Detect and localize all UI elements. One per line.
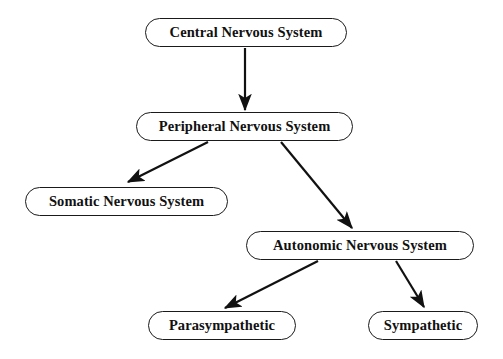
node-label-parasympathetic: Parasympathetic bbox=[169, 318, 275, 333]
node-autonomic-nervous-system[interactable]: Autonomic Nervous System bbox=[246, 231, 474, 260]
node-somatic-nervous-system[interactable]: Somatic Nervous System bbox=[25, 187, 228, 216]
edge-peripheral-to-somatic bbox=[128, 142, 208, 182]
node-label-peripheral: Peripheral Nervous System bbox=[159, 119, 331, 134]
node-sympathetic[interactable]: Sympathetic bbox=[368, 311, 478, 340]
node-peripheral-nervous-system[interactable]: Peripheral Nervous System bbox=[136, 112, 353, 141]
node-label-central: Central Nervous System bbox=[170, 25, 323, 40]
node-label-autonomic: Autonomic Nervous System bbox=[273, 238, 447, 253]
node-central-nervous-system[interactable]: Central Nervous System bbox=[145, 18, 347, 47]
edge-peripheral-to-autonomic bbox=[281, 142, 352, 228]
node-label-sympathetic: Sympathetic bbox=[384, 318, 462, 333]
nervous-system-diagram: Central Nervous System Peripheral Nervou… bbox=[0, 0, 503, 359]
node-parasympathetic[interactable]: Parasympathetic bbox=[148, 311, 296, 340]
edge-autonomic-to-sympathetic bbox=[396, 261, 424, 307]
node-label-somatic: Somatic Nervous System bbox=[49, 194, 204, 209]
edge-group bbox=[128, 48, 424, 308]
diagram-edges-layer bbox=[0, 0, 503, 359]
edge-autonomic-to-parasympathetic bbox=[225, 261, 318, 308]
